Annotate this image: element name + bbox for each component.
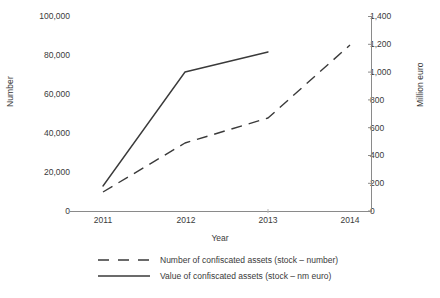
y-left-tick-0: 0 xyxy=(8,206,70,216)
y-left-tick-20000: 20,000 xyxy=(8,167,70,177)
y-axis-right-label: Million euro xyxy=(415,93,425,107)
x-axis-label: Year xyxy=(0,233,440,243)
y-left-tick-40000: 40,000 xyxy=(8,128,70,138)
y-right-tick-1200: 1,200 xyxy=(370,39,410,49)
line-chart: Number Million euro Year 100,000 80,000 … xyxy=(0,0,440,298)
x-tick-2012: 2012 xyxy=(156,215,216,225)
x-tick-2013: 2013 xyxy=(238,215,298,225)
x-tick-2011: 2011 xyxy=(73,215,133,225)
y-left-tick-60000: 60,000 xyxy=(8,89,70,99)
y-right-tick-200: 200 xyxy=(370,178,410,188)
y-right-tick-400: 400 xyxy=(370,150,410,160)
legend-key-solid-line xyxy=(96,271,152,281)
legend-label-number: Number of confiscated assets (stock – nu… xyxy=(152,255,338,265)
chart-legend: Number of confiscated assets (stock – nu… xyxy=(96,252,396,284)
x-tick-2014: 2014 xyxy=(320,215,380,225)
y-right-tick-800: 800 xyxy=(370,95,410,105)
legend-item-number: Number of confiscated assets (stock – nu… xyxy=(96,252,396,268)
y-right-tick-1400: 1,400 xyxy=(370,11,410,21)
y-right-tick-600: 600 xyxy=(370,123,410,133)
y-right-tick-1000: 1,000 xyxy=(370,67,410,77)
y-left-tick-100000: 100,000 xyxy=(8,11,70,21)
legend-key-dashed-line xyxy=(96,255,152,265)
legend-item-value: Value of confiscated assets (stock – nm … xyxy=(96,268,396,284)
legend-label-value: Value of confiscated assets (stock – nm … xyxy=(152,271,331,281)
series-value-confiscated-assets xyxy=(103,52,268,186)
series-number-confiscated-assets xyxy=(103,45,350,192)
y-left-tick-80000: 80,000 xyxy=(8,50,70,60)
